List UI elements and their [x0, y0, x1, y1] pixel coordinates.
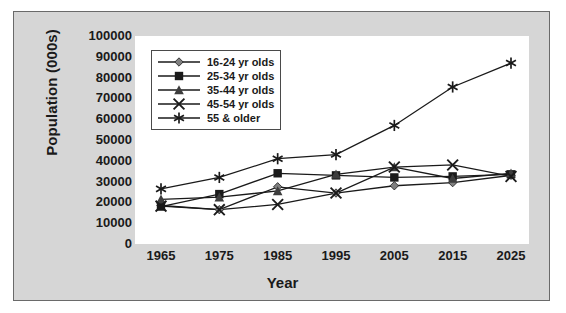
- chart-legend: 16-24 yr olds25-34 yr olds35-44 yr olds4…: [151, 50, 281, 130]
- series-markers-3: [156, 160, 517, 216]
- legend-item: 35-44 yr olds: [156, 83, 274, 97]
- marker-diamond: [390, 182, 398, 190]
- marker-square: [390, 173, 398, 181]
- marker-asterisk: [389, 120, 399, 131]
- marker-diamond: [175, 58, 183, 66]
- legend-label: 25-34 yr olds: [207, 70, 274, 82]
- legend-label: 35-44 yr olds: [207, 84, 274, 96]
- chart-figure: Population (000s) Year 10000090000800007…: [13, 11, 550, 301]
- marker-asterisk: [506, 57, 516, 68]
- series-lines: [14, 12, 551, 302]
- legend-marker-icon: [156, 111, 202, 125]
- marker-asterisk: [214, 172, 224, 183]
- legend-item: 45-54 yr olds: [156, 97, 274, 111]
- marker-square: [175, 72, 183, 80]
- legend-label: 55 & older: [207, 112, 260, 124]
- marker-square: [273, 169, 281, 177]
- legend-marker-icon: [156, 69, 202, 83]
- legend-label: 45-54 yr olds: [207, 98, 274, 110]
- marker-asterisk: [156, 183, 166, 194]
- legend-item: 25-34 yr olds: [156, 69, 274, 83]
- legend-item: 55 & older: [156, 111, 274, 125]
- marker-asterisk: [448, 81, 458, 92]
- legend-marker-icon: [156, 97, 202, 111]
- legend-marker-icon: [156, 55, 202, 69]
- legend-marker-icon: [156, 83, 202, 97]
- legend-item: 16-24 yr olds: [156, 55, 274, 69]
- legend-label: 16-24 yr olds: [207, 56, 274, 68]
